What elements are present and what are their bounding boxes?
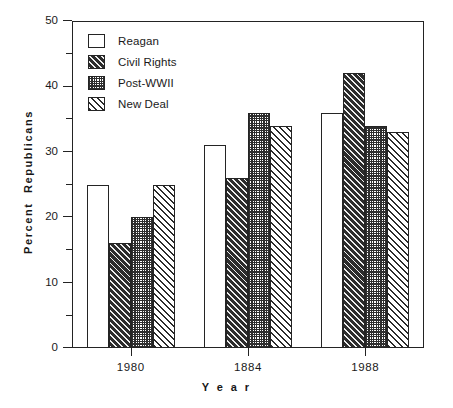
- x-axis-tick-label: 1884: [208, 361, 288, 373]
- bar-new-deal-1988: [387, 132, 409, 348]
- legend-swatch-icon: [88, 34, 105, 48]
- y-axis-tick-major: [63, 282, 72, 283]
- y-axis-tick-label: 20: [0, 211, 58, 223]
- legend-label: Reagan: [118, 35, 159, 47]
- bar-civil-rights-1980: [109, 243, 131, 348]
- bar-new-deal-1980: [153, 185, 175, 349]
- bar-post-wwii-1988: [365, 126, 387, 348]
- bar-post-wwii-1980: [131, 217, 153, 348]
- legend-swatch-icon: [88, 55, 105, 69]
- legend-item-new-deal: New Deal: [88, 93, 238, 114]
- bar-reagan-1980: [87, 185, 109, 349]
- x-axis-tick: [131, 348, 132, 356]
- x-axis-tick: [365, 348, 366, 356]
- y-axis-title: Percent Republicans: [22, 62, 34, 302]
- y-axis-tick-label: 0: [0, 342, 58, 354]
- y-axis-tick-label: 30: [0, 146, 58, 158]
- bar-civil-rights-1988: [343, 73, 365, 348]
- legend-item-civil-rights: Civil Rights: [88, 51, 238, 72]
- legend-item-reagan: Reagan: [88, 30, 238, 51]
- legend-label: Post-WWII: [118, 77, 174, 89]
- bar-chart: Percent Republicans 01020304050 19801884…: [0, 0, 453, 408]
- bar-civil-rights-1884: [226, 178, 248, 348]
- bar-reagan-1988: [321, 113, 343, 348]
- bar-new-deal-1884: [270, 126, 292, 348]
- y-axis-tick-label: 10: [0, 277, 58, 289]
- x-axis-title: Y e a r: [0, 381, 453, 393]
- x-axis-tick: [248, 348, 249, 356]
- x-axis-tick-label: 1988: [325, 361, 405, 373]
- legend-label: Civil Rights: [118, 56, 177, 68]
- y-axis-tick-major: [63, 86, 72, 87]
- legend-swatch-icon: [88, 76, 105, 90]
- y-axis-tick-label: 40: [0, 80, 58, 92]
- y-axis-tick-major: [63, 151, 72, 152]
- x-axis-tick-label: 1980: [91, 361, 171, 373]
- y-axis-tick-label: 50: [0, 15, 58, 27]
- bar-post-wwii-1884: [248, 113, 270, 348]
- bar-reagan-1884: [204, 145, 226, 348]
- legend-label: New Deal: [118, 98, 169, 110]
- y-axis-tick-major: [63, 20, 72, 21]
- legend-item-post-wwii: Post-WWII: [88, 72, 238, 93]
- chart-legend: ReaganCivil RightsPost-WWIINew Deal: [88, 30, 238, 114]
- y-axis-tick-major: [63, 216, 72, 217]
- legend-swatch-icon: [88, 97, 105, 111]
- y-axis-tick-major: [63, 347, 72, 348]
